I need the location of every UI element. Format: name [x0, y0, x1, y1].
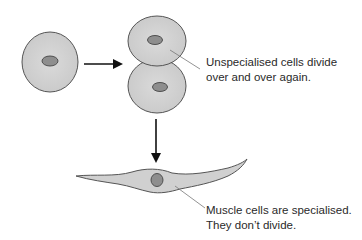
nucleus-top — [148, 36, 163, 45]
annotation-dividing-line2: over and over again. — [206, 70, 337, 85]
annotation-muscle-line2: They don’t divide. — [206, 218, 352, 233]
muscle-cell — [76, 159, 247, 193]
dividing-cells — [128, 16, 186, 113]
nucleus-bottom — [153, 83, 168, 92]
annotation-dividing: Unspecialised cells divide over and over… — [206, 55, 337, 85]
muscle-cell-nucleus — [151, 174, 163, 187]
cell-nucleus — [42, 56, 58, 66]
unspecialised-cell — [22, 32, 78, 92]
leader-line-muscle — [175, 186, 205, 208]
annotation-muscle-line1: Muscle cells are specialised. — [206, 203, 352, 218]
diagram-canvas: Unspecialised cells divide over and over… — [0, 0, 362, 240]
annotation-muscle: Muscle cells are specialised. They don’t… — [206, 203, 352, 233]
annotation-dividing-line1: Unspecialised cells divide — [206, 55, 337, 70]
